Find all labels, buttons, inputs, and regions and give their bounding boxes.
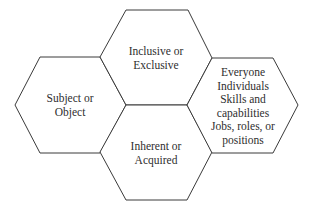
hexagon-left-label: Subject or Object	[20, 92, 120, 119]
hexagon-top-label: Inclusive or Exclusive	[106, 45, 206, 72]
hexagon-right-label: Everyone Individuals Skills and capabili…	[193, 66, 293, 147]
hexagon-bottom-label: Inherent or Acquired	[106, 140, 206, 167]
